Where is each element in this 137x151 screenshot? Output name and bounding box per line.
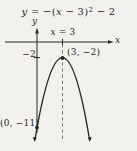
figure-title: y = −(x − 3)2 − 2 — [0, 6, 137, 17]
symmetry-rest: = 3 — [56, 27, 76, 37]
x-axis-arrowhead-icon — [108, 40, 114, 44]
x-axis-label: x — [115, 36, 120, 45]
parabola-figure: y = −(x − 3)2 − 2 y x x = 3 (3, −2) −2 (… — [0, 0, 137, 151]
curve-arrowhead-right-icon — [88, 137, 92, 142]
y-tick-label: −2 — [20, 50, 36, 59]
title-tail: − 2 — [93, 6, 115, 17]
axis-of-symmetry-label: x = 3 — [50, 28, 76, 37]
vertex-label: (3, −2) — [67, 48, 100, 57]
y-axis-label: y — [32, 17, 37, 26]
plot-canvas — [0, 0, 137, 151]
y-intercept-label: (0, −11) — [0, 119, 39, 128]
y-axis-arrowhead-icon — [35, 28, 39, 34]
curve-arrowhead-left-icon — [33, 137, 37, 142]
vertex-point — [61, 56, 65, 60]
title-close: − 3) — [62, 6, 89, 17]
